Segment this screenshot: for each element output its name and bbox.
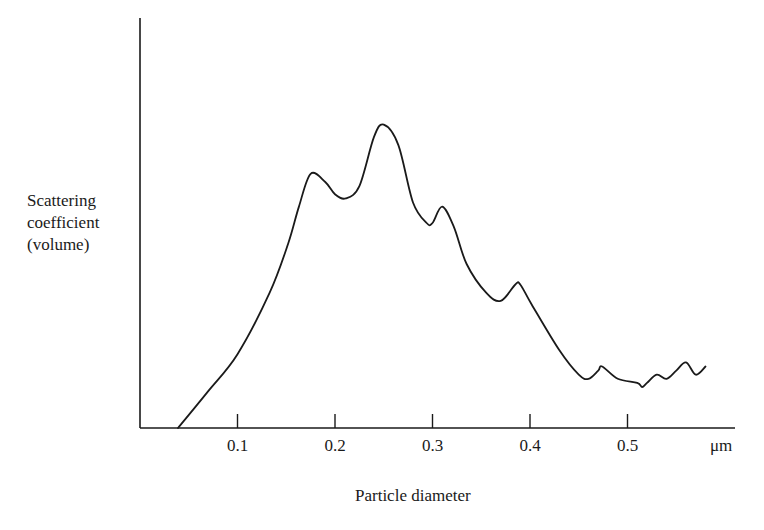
x-tick-label: 0.3 bbox=[422, 436, 443, 456]
x-tick-label: 0.4 bbox=[519, 436, 540, 456]
chart-canvas bbox=[0, 0, 764, 530]
x-tick-label: 0.1 bbox=[227, 436, 248, 456]
y-axis-label-line-1: Scattering bbox=[27, 190, 99, 212]
x-axis-ticks bbox=[238, 414, 628, 428]
y-axis-label: Scattering coefficient (volume) bbox=[27, 190, 99, 256]
x-axis-unit: μm bbox=[710, 436, 732, 456]
data-curve bbox=[178, 124, 705, 428]
x-tick-label: 0.5 bbox=[617, 436, 638, 456]
x-tick-label: 0.2 bbox=[324, 436, 345, 456]
y-axis-label-line-3: (volume) bbox=[27, 234, 99, 256]
x-axis-label: Particle diameter bbox=[355, 486, 471, 506]
y-axis-label-line-2: coefficient bbox=[27, 212, 99, 234]
